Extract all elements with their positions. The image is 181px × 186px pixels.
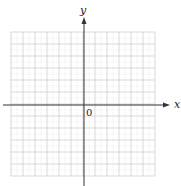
axes (3, 17, 170, 186)
y-axis-arrow-icon (82, 17, 87, 24)
y-axis-label: y (79, 4, 87, 17)
origin-label: 0 (86, 107, 92, 118)
x-axis-arrow-icon (163, 103, 170, 108)
grid (11, 32, 155, 176)
x-axis-label: x (174, 98, 181, 111)
coordinate-plane: y x 0 (0, 0, 181, 186)
